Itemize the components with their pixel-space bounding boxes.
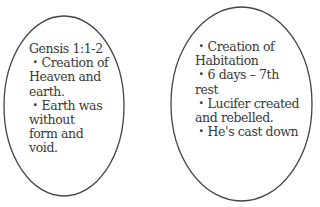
- text-line: Gensis 1:1-2: [29, 42, 108, 56]
- left-ellipse-text: Gensis 1:1-2 ・Creation of Heaven and ear…: [29, 42, 108, 156]
- text-line: earth.: [29, 85, 108, 99]
- text-line: ・6 days – 7th: [195, 68, 299, 82]
- text-line: rest: [195, 83, 299, 97]
- text-line: ・He's cast down: [195, 125, 299, 139]
- right-ellipse-text: ・Creation of Habitation ・6 days – 7th re…: [195, 40, 299, 139]
- text-line: void.: [29, 141, 108, 155]
- text-line: ・Creation of: [195, 40, 299, 54]
- text-line: form and: [29, 127, 108, 141]
- text-line: and rebelled.: [195, 111, 299, 125]
- text-line: without: [29, 113, 108, 127]
- text-line: ・Earth was: [29, 99, 108, 113]
- text-line: Habitation: [195, 54, 299, 68]
- text-line: ・Creation of: [29, 56, 108, 70]
- text-line: Heaven and: [29, 70, 108, 84]
- text-line: ・Lucifer created: [195, 97, 299, 111]
